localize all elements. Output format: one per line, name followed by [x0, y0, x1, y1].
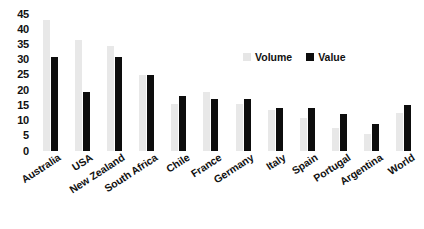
y-axis-tick: 30 — [1, 54, 29, 65]
bar-value — [115, 57, 122, 151]
bar-group — [203, 14, 218, 151]
bar-group — [268, 14, 283, 151]
bar-group — [300, 14, 315, 151]
y-axis-tick: 0 — [1, 146, 29, 157]
bar-value — [51, 57, 58, 151]
x-axis-label: Chile — [164, 151, 192, 175]
chart-legend: Volume Value — [243, 52, 346, 63]
bar-group — [107, 14, 122, 151]
bar-volume — [300, 118, 307, 151]
bar-volume — [332, 128, 339, 151]
legend-label-value: Value — [318, 52, 345, 63]
y-axis-tick: 10 — [1, 115, 29, 126]
bar-volume — [139, 75, 146, 151]
plot-area — [34, 14, 420, 151]
bar-volume — [75, 40, 82, 151]
bar-value — [340, 114, 347, 151]
bar-group — [236, 14, 251, 151]
bar-value — [404, 105, 411, 151]
legend-swatch-volume-icon — [243, 53, 251, 61]
y-axis-tick: 35 — [1, 39, 29, 50]
bar-group — [332, 14, 347, 151]
legend-swatch-value-icon — [306, 53, 314, 61]
bar-value — [179, 96, 186, 151]
bar-volume — [107, 46, 114, 151]
bar-volume — [171, 104, 178, 151]
bar-value — [372, 124, 379, 151]
x-axis-labels: AustraliaUSANew ZealandSouth AfricaChile… — [34, 151, 420, 229]
bar-volume — [396, 113, 403, 151]
bar-value — [276, 108, 283, 151]
bar-volume — [43, 20, 50, 151]
bar-group — [75, 14, 90, 151]
bar-volume — [236, 104, 243, 151]
y-axis: 051015202530354045 — [0, 0, 34, 229]
bar-volume — [203, 92, 210, 151]
x-axis-label: World — [386, 151, 417, 177]
y-axis-tick: 5 — [1, 130, 29, 141]
y-axis-tick: 40 — [1, 24, 29, 35]
y-axis-tick: 20 — [1, 85, 29, 96]
legend-item-value: Value — [306, 52, 345, 63]
bar-volume — [268, 110, 275, 151]
y-axis-tick: 15 — [1, 100, 29, 111]
bar-value — [147, 75, 154, 151]
bar-group — [364, 14, 379, 151]
bar-value — [211, 99, 218, 151]
bar-group — [396, 14, 411, 151]
x-axis-label: Italy — [264, 151, 288, 172]
legend-item-volume: Volume — [243, 52, 292, 63]
legend-label-volume: Volume — [255, 52, 292, 63]
bar-volume — [364, 134, 371, 151]
y-axis-tick: 25 — [1, 69, 29, 80]
bar-group — [171, 14, 186, 151]
grouped-bar-chart: 051015202530354045 AustraliaUSANew Zeala… — [0, 0, 424, 229]
bar-value — [244, 99, 251, 151]
bar-group — [139, 14, 154, 151]
y-axis-tick: 45 — [1, 9, 29, 20]
bar-value — [308, 108, 315, 151]
bar-value — [83, 92, 90, 151]
bar-group — [43, 14, 58, 151]
